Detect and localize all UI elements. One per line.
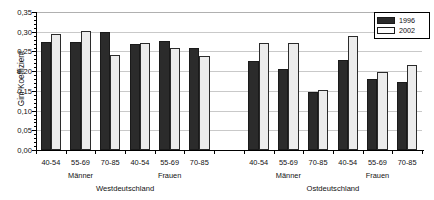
x-tick-label: 55-69 — [66, 158, 96, 167]
x-tick-mark — [125, 150, 126, 154]
bar-1996-55-69-10 — [367, 79, 377, 150]
x-tick-mark — [155, 150, 156, 154]
bar-1996-70-85-5 — [189, 48, 199, 150]
y-tick-label: 0,00 — [4, 146, 32, 155]
x-tick-mark — [422, 150, 423, 154]
x-tick-label: 70-85 — [95, 158, 125, 167]
x-tick-mark — [244, 150, 245, 154]
gini-coefficient-bar-chart: 0,35 0,30 0,25 0,20 0,15 0,10 0,05 0,00 — [0, 0, 434, 200]
legend: 1996 2002 — [374, 12, 430, 39]
x-tick-label: 40-54 — [244, 158, 274, 167]
x-tick-mark — [274, 150, 275, 154]
bar-1996-40-54-6 — [248, 61, 258, 150]
bar-1996-55-69-7 — [278, 69, 288, 150]
x-tick-label: 70-85 — [184, 158, 214, 167]
bars-layer — [36, 12, 422, 150]
bar-1996-55-69-4 — [159, 41, 169, 150]
x-tick-mark — [214, 150, 215, 154]
bar-1996-40-54-0 — [41, 42, 51, 150]
legend-item-2002: 2002 — [377, 26, 427, 35]
bar-2002-70-85-11 — [407, 65, 417, 150]
bar-2002-40-54-6 — [259, 43, 269, 150]
bar-2002-70-85-2 — [110, 55, 120, 150]
legend-item-1996: 1996 — [377, 16, 427, 25]
x-tick-label: 40-54 — [125, 158, 155, 167]
bar-2002-40-54-0 — [51, 34, 61, 150]
x-tick-label: 55-69 — [155, 158, 185, 167]
bar-2002-55-69-7 — [288, 43, 298, 150]
bar-1996-40-54-9 — [338, 60, 348, 150]
bar-1996-55-69-1 — [70, 42, 80, 150]
x-region-label: Westdeutschland — [65, 184, 185, 193]
x-group-label: Männer — [41, 171, 121, 180]
y-axis-title: Gini-Koeffizient — [17, 14, 26, 144]
x-group-label: Frauen — [337, 171, 417, 180]
bar-1996-70-85-11 — [397, 82, 407, 150]
x-region-label: Ostdeutschland — [273, 184, 393, 193]
legend-swatch-light-icon — [377, 27, 395, 34]
x-group-label: Frauen — [130, 171, 210, 180]
legend-swatch-dark-icon — [377, 17, 395, 24]
bar-2002-55-69-10 — [377, 72, 387, 150]
x-tick-mark — [66, 150, 67, 154]
x-axis-baseline — [36, 150, 424, 151]
x-tick-label: 40-54 — [36, 158, 66, 167]
legend-label: 2002 — [399, 26, 415, 35]
x-tick-mark — [184, 150, 185, 154]
x-tick-mark — [392, 150, 393, 154]
x-tick-label: 55-69 — [274, 158, 304, 167]
bar-2002-70-85-8 — [318, 90, 328, 150]
bar-2002-40-54-3 — [140, 43, 150, 150]
x-tick-label: 40-54 — [333, 158, 363, 167]
x-tick-label: 70-85 — [303, 158, 333, 167]
x-tick-mark — [95, 150, 96, 154]
bar-2002-55-69-4 — [170, 48, 180, 150]
legend-label: 1996 — [399, 16, 415, 25]
x-tick-mark — [363, 150, 364, 154]
bar-2002-40-54-9 — [348, 36, 358, 150]
bar-2002-55-69-1 — [81, 31, 91, 150]
bar-1996-70-85-8 — [308, 92, 318, 150]
x-group-label: Männer — [248, 171, 328, 180]
x-tick-label: 70-85 — [392, 158, 422, 167]
x-tick-mark — [303, 150, 304, 154]
x-tick-label: 55-69 — [363, 158, 393, 167]
bar-1996-70-85-2 — [100, 32, 110, 150]
bar-1996-40-54-3 — [130, 44, 140, 150]
bar-2002-70-85-5 — [199, 56, 209, 150]
x-tick-mark — [333, 150, 334, 154]
x-tick-mark — [36, 150, 37, 154]
